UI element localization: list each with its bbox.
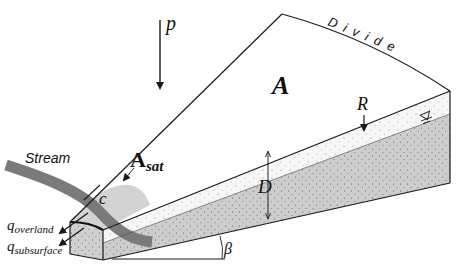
- slope-angle-label: β: [223, 240, 232, 258]
- recharge-label: R: [356, 94, 368, 114]
- q-subsurface-label: qsubsurface: [7, 238, 62, 256]
- hillslope-diagram: p A Divide R D Stream Asat c qoverland q…: [0, 0, 458, 266]
- precipitation-label: p: [164, 12, 176, 35]
- stream-label: Stream: [25, 150, 70, 166]
- q-overland-label: qoverland: [7, 217, 54, 235]
- saturated-area-label-sub: sat: [145, 158, 164, 174]
- area-label: A: [270, 71, 289, 100]
- q-overland-label-sub: overland: [15, 223, 55, 235]
- saturated-area-label-main: A: [130, 147, 146, 172]
- depth-label: D: [257, 176, 272, 197]
- q-subsurface-label-sub: subsurface: [15, 244, 63, 256]
- contour-label: c: [99, 189, 107, 208]
- slope-angle-arc: [220, 236, 223, 259]
